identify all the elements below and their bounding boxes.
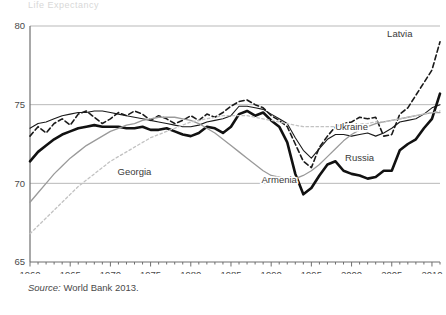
series-label-latvia: Latvia: [387, 28, 413, 39]
x-tick-label: 1980: [180, 269, 201, 274]
x-tick-label: 2005: [381, 269, 402, 274]
series-label-armenia: Armenia: [262, 174, 298, 185]
series-line-russia: [30, 94, 440, 195]
source-note-text: World Bank 2013.: [63, 282, 138, 293]
x-tick-label: 1960: [19, 269, 40, 274]
y-tick-label: 75: [14, 99, 25, 110]
y-tick-label: 65: [14, 256, 25, 267]
x-tick-label: 1970: [100, 269, 121, 274]
x-tick-label: 1975: [140, 269, 161, 274]
series-label-ukraine: Ukraine: [335, 121, 368, 132]
figure-panel: Life Expectancy 807570651960196519701975…: [0, 0, 446, 315]
series-line-ukraine: [30, 105, 440, 158]
series-line-georgia: [30, 111, 440, 234]
x-tick-label: 1985: [220, 269, 241, 274]
x-tick-label: 2010: [421, 269, 442, 274]
chart-plot-area: 8075706519601965197019751980198519901995…: [0, 14, 446, 274]
x-tick-label: 1990: [261, 269, 282, 274]
series-label-russia: Russia: [345, 152, 375, 163]
y-tick-label: 80: [14, 20, 25, 31]
line-chart: 8075706519601965197019751980198519901995…: [0, 14, 446, 274]
source-note: Source: World Bank 2013.: [28, 282, 139, 293]
x-tick-label: 1965: [60, 269, 81, 274]
figure-partial-title: Life Expectancy: [28, 0, 228, 14]
x-tick-label: 2000: [341, 269, 362, 274]
y-tick-label: 70: [14, 178, 25, 189]
source-note-label: Source:: [28, 282, 61, 293]
x-tick-label: 1995: [301, 269, 322, 274]
series-label-georgia: Georgia: [118, 166, 153, 177]
